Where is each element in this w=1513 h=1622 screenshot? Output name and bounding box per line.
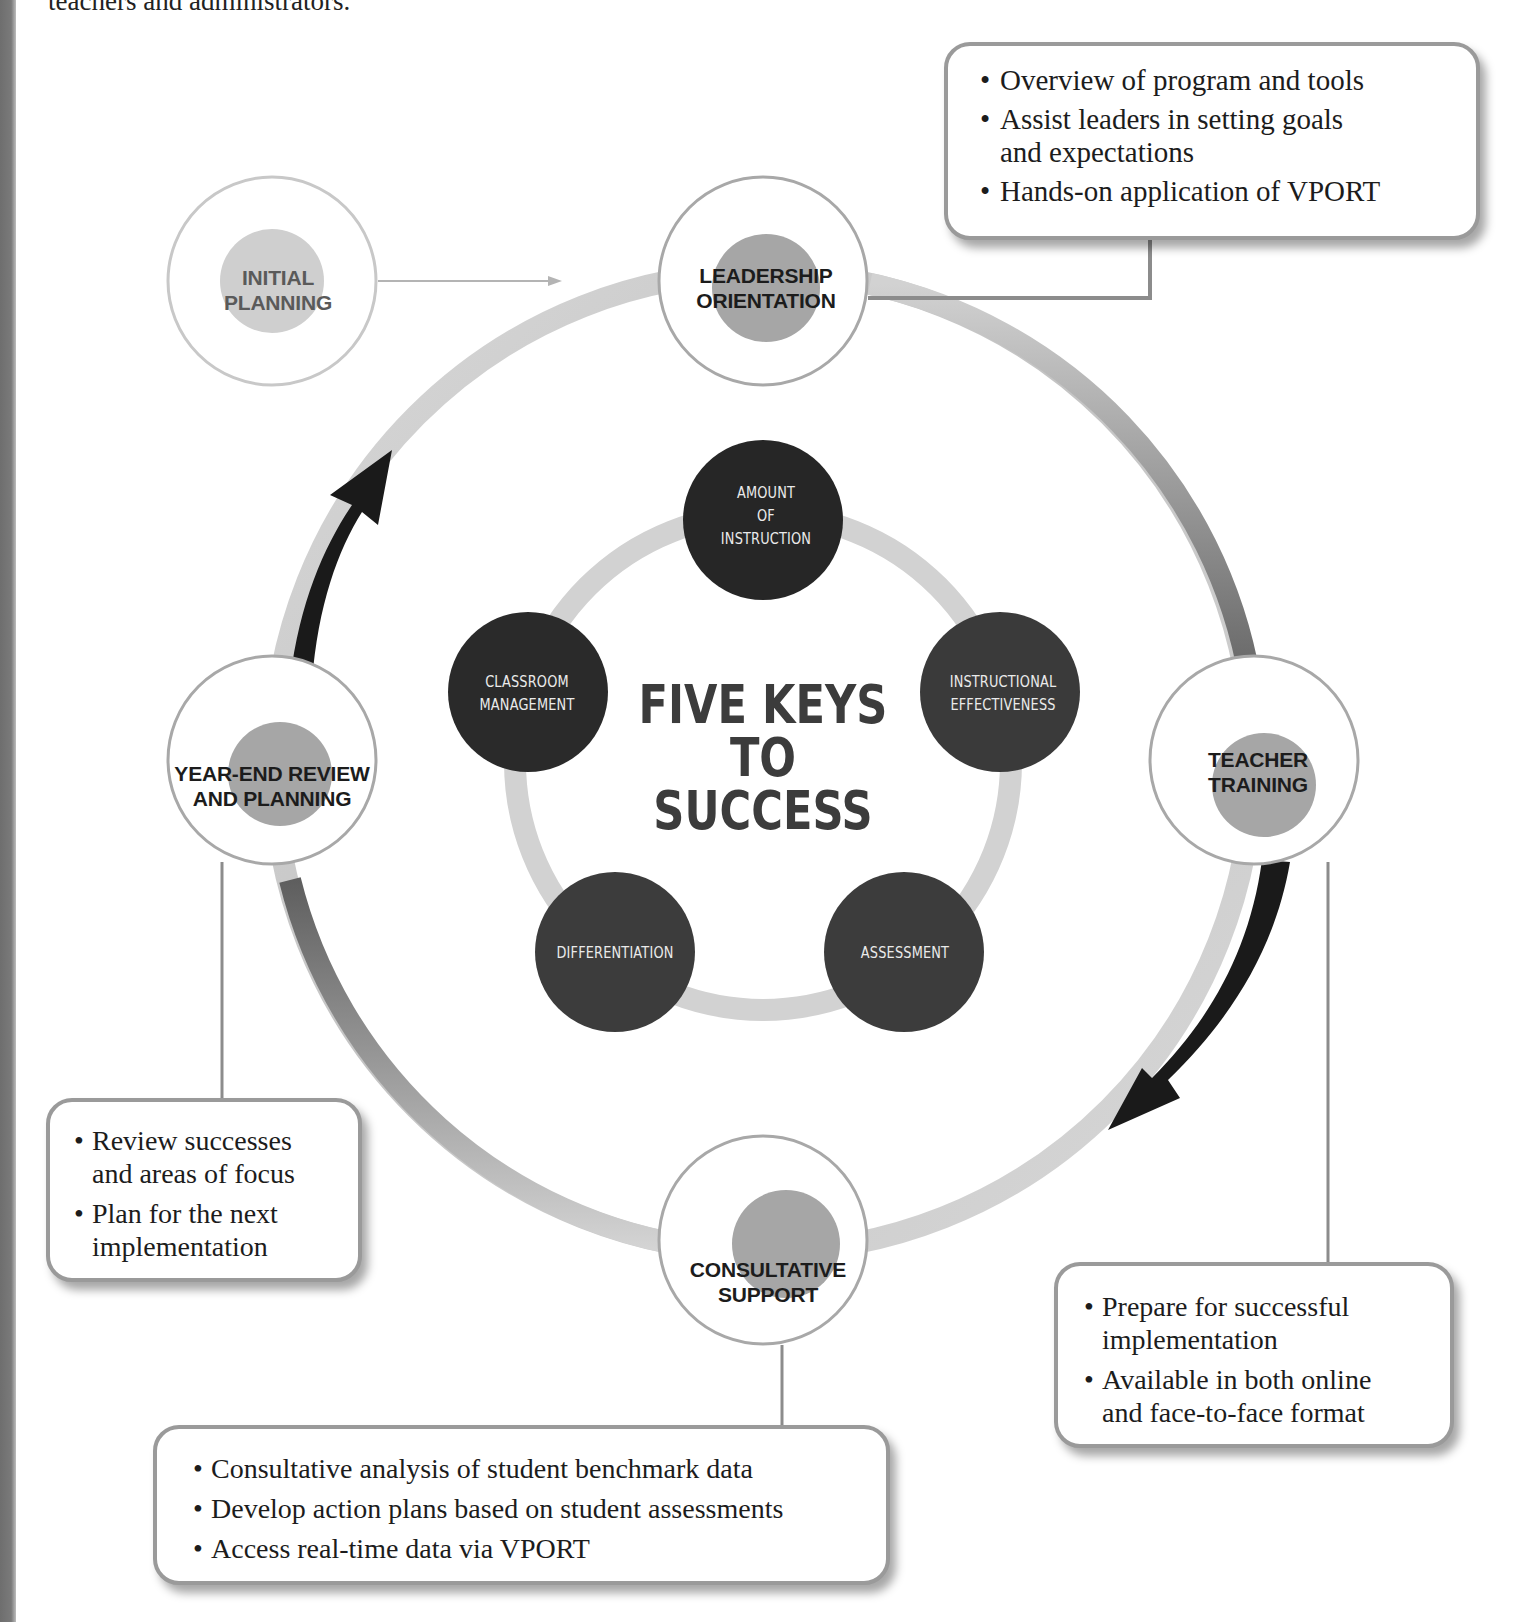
bullet-text: Develop action plans based on student as… — [211, 1493, 783, 1524]
callout-year-end-review: Review successesand areas of focus Plan … — [46, 1098, 362, 1282]
callout-consultative-support: Consultative analysis of student benchma… — [153, 1425, 890, 1585]
stage-label-line: PLANNING — [224, 290, 332, 315]
bullet-text: Available in both online — [1102, 1364, 1371, 1395]
callout-bullet: Prepare for successfulimplementation — [1082, 1290, 1440, 1356]
connector-arrowhead-icon — [548, 276, 562, 286]
bullet-text: Assist leaders in setting goals — [1000, 103, 1343, 135]
bullet-text: Plan for the next — [92, 1198, 278, 1229]
callout-bullet: Consultative analysis of student benchma… — [191, 1449, 872, 1489]
bullet-text: Access real-time data via VPORT — [211, 1533, 590, 1564]
key-label-line: INSTRUCTIONAL — [950, 671, 1057, 694]
key-label-line: MANAGEMENT — [480, 694, 575, 717]
callout-bullet: Available in both onlineand face-to-face… — [1082, 1363, 1440, 1429]
key-label-instructional-effectiveness: INSTRUCTIONAL EFFECTIVENESS — [950, 671, 1057, 717]
stage-label-consultative-support: CONSULTATIVE SUPPORT — [690, 1257, 846, 1307]
bullet-text: and expectations — [1000, 136, 1194, 168]
callout-leadership-orientation: Overview of program and tools Assist lea… — [944, 42, 1480, 240]
outer-ring-shade-right — [870, 284, 1250, 680]
key-label-line: OF — [721, 505, 811, 528]
callout-bullet: Assist leaders in setting goalsand expec… — [974, 103, 1456, 169]
key-label-line: INSTRUCTION — [721, 528, 811, 551]
stage-label-line: LEADERSHIP — [696, 263, 835, 288]
callout-bullet: Overview of program and tools — [974, 64, 1456, 97]
key-label-assessment: ASSESSMENT — [861, 942, 949, 965]
bullet-text: Prepare for successful — [1102, 1291, 1349, 1322]
bullet-text: Overview of program and tools — [1000, 64, 1364, 96]
stage-label-teacher-training: TEACHER TRAINING — [1208, 747, 1308, 797]
key-label-line: ASSESSMENT — [861, 942, 949, 965]
callout-bullet: Plan for the nextimplementation — [72, 1197, 346, 1263]
key-label-line: AMOUNT — [721, 482, 811, 505]
key-label-line: EFFECTIVENESS — [950, 694, 1057, 717]
key-label-classroom-management: CLASSROOM MANAGEMENT — [480, 671, 575, 717]
bullet-text: and face-to-face format — [1102, 1397, 1365, 1428]
bullet-text: implementation — [1102, 1324, 1278, 1355]
stage-consultative-support — [659, 1136, 867, 1344]
callout-bullet: Develop action plans based on student as… — [191, 1489, 872, 1529]
stage-label-line: INITIAL — [224, 265, 332, 290]
callout-bullet: Access real-time data via VPORT — [191, 1529, 872, 1569]
center-title-line: SUCCESS — [639, 784, 888, 837]
stage-label-line: AND PLANNING — [174, 786, 369, 811]
callout-bullet: Review successesand areas of focus — [72, 1124, 346, 1190]
bullet-text: Hands-on application of VPORT — [1000, 175, 1380, 207]
stage-year-end-review — [168, 656, 376, 864]
key-label-differentiation: DIFFERENTIATION — [556, 942, 673, 965]
center-title-line: TO — [639, 731, 888, 784]
bullet-text: implementation — [92, 1231, 268, 1262]
key-label-line: CLASSROOM — [480, 671, 575, 694]
stage-label-line: TEACHER — [1208, 747, 1308, 772]
stage-label-line: SUPPORT — [690, 1282, 846, 1307]
bullet-text: Review successes — [92, 1125, 292, 1156]
stage-label-line: ORIENTATION — [696, 288, 835, 313]
stage-label-leadership-orientation: LEADERSHIP ORIENTATION — [696, 263, 835, 313]
callout-bullet: Hands-on application of VPORT — [974, 175, 1456, 208]
center-title: FIVE KEYS TO SUCCESS — [639, 678, 888, 837]
bullet-text: Consultative analysis of student benchma… — [211, 1453, 753, 1484]
stage-label-line: TRAINING — [1208, 772, 1308, 797]
center-title-line: FIVE KEYS — [639, 678, 888, 731]
callout-teacher-training: Prepare for successfulimplementation Ava… — [1054, 1262, 1454, 1448]
stage-label-initial-planning: INITIAL PLANNING — [224, 265, 332, 315]
key-label-amount-of-instruction: AMOUNT OF INSTRUCTION — [721, 482, 811, 551]
stage-label-line: YEAR-END REVIEW — [174, 761, 369, 786]
stage-label-line: CONSULTATIVE — [690, 1257, 846, 1282]
stage-label-year-end-review: YEAR-END REVIEW AND PLANNING — [174, 761, 369, 811]
key-label-line: DIFFERENTIATION — [556, 942, 673, 965]
bullet-text: and areas of focus — [92, 1158, 295, 1189]
